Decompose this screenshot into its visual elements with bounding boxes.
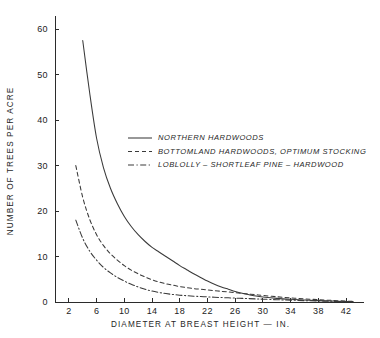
x-tick-label: 18 [174,306,185,316]
x-tick-label: 2 [66,306,71,316]
legend-label-2: LOBLOLLY – SHORTLEAF PINE – HARDWOOD [158,160,344,169]
legend-layer: NORTHERN HARDWOODSBOTTOMLAND HARDWOODS, … [128,133,366,169]
y-tick-label: 50 [37,70,48,80]
series-layer [76,40,353,301]
x-axis-title: DIAMETER AT BREAST HEIGHT — IN. [111,320,290,329]
y-tick-label: 20 [37,206,48,216]
series-line-1 [76,166,353,302]
chart-svg: 010203040506026101418222630343842 NORTHE… [0,0,380,338]
y-tick-label: 10 [37,252,48,262]
axis-titles-layer: DIAMETER AT BREAST HEIGHT — IN.NUMBER OF… [6,87,290,329]
x-tick-label: 30 [258,306,269,316]
y-tick-label: 60 [37,24,48,34]
y-tick-label: 30 [37,161,48,171]
legend-label-0: NORTHERN HARDWOODS [158,133,264,142]
y-tick-label: 40 [37,115,48,125]
x-tick-label: 38 [313,306,324,316]
chart-figure: 010203040506026101418222630343842 NORTHE… [0,0,380,338]
y-axis-title: NUMBER OF TREES PER ACRE [6,87,15,236]
series-line-2 [76,220,353,302]
x-tick-label: 34 [285,306,296,316]
x-tick-label: 42 [341,306,352,316]
x-tick-label: 14 [147,306,158,316]
x-tick-label: 26 [230,306,241,316]
legend-label-1: BOTTOMLAND HARDWOODS, OPTIMUM STOCKING [158,147,366,156]
x-tick-label: 10 [119,306,130,316]
x-tick-label: 22 [202,306,213,316]
y-tick-label: 0 [43,297,48,307]
series-line-0 [83,40,353,301]
x-tick-label: 6 [94,306,99,316]
